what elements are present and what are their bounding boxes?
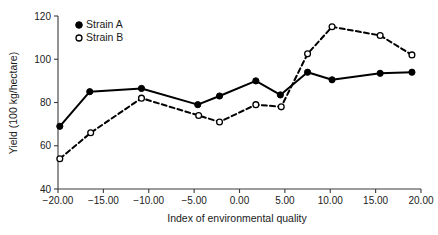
y-tick-label: 80: [40, 97, 52, 108]
x-tick-label: −15.00: [88, 195, 119, 206]
x-tick-label: 10.00: [318, 195, 343, 206]
series-strain-a: [57, 69, 415, 129]
data-point: [87, 89, 93, 95]
chart-canvas: 406080100120−20.00−15.00−10.00−5.000.005…: [0, 0, 438, 235]
y-tick-label: 60: [40, 140, 52, 151]
series-strain-b: [57, 24, 415, 162]
x-tick-label: −10.00: [133, 195, 164, 206]
y-tick-label: 100: [34, 54, 51, 65]
data-point: [305, 51, 311, 57]
y-axis-title: Yield (100 kg/hectare): [7, 52, 19, 154]
data-point: [217, 119, 223, 125]
y-tick-label: 120: [34, 11, 51, 22]
legend-marker-filled-circle-icon: [76, 22, 83, 29]
x-tick-label: 0.00: [230, 195, 250, 206]
x-tick-label: 20.00: [408, 195, 433, 206]
chart-figure: 406080100120−20.00−15.00−10.00−5.000.005…: [0, 0, 438, 235]
data-point: [277, 92, 283, 98]
x-tick-label: −20.00: [43, 195, 74, 206]
data-point: [304, 69, 310, 75]
data-series: [57, 24, 415, 162]
data-point: [377, 70, 383, 76]
data-point: [196, 113, 202, 119]
data-point: [139, 95, 145, 101]
y-tick-label: 40: [40, 184, 52, 195]
chart-legend: Strain AStrain B: [76, 18, 124, 43]
data-point: [216, 93, 222, 99]
legend-label: Strain B: [86, 31, 123, 43]
series-line: [60, 27, 412, 159]
legend-label: Strain A: [86, 18, 123, 30]
legend-marker-open-circle-icon: [76, 35, 82, 41]
data-point: [329, 24, 335, 30]
data-point: [57, 123, 63, 129]
data-point: [253, 78, 259, 84]
data-point: [195, 102, 201, 108]
data-point: [88, 130, 94, 136]
data-point: [409, 52, 415, 58]
x-tick-label: −5.00: [181, 195, 207, 206]
data-point: [57, 156, 63, 162]
x-tick-label: 15.00: [363, 195, 388, 206]
x-tick-label: 5.00: [275, 195, 295, 206]
data-point: [253, 102, 259, 108]
data-point: [409, 69, 415, 75]
data-point: [138, 85, 144, 91]
data-point: [278, 104, 284, 110]
data-point: [377, 33, 383, 39]
data-point: [329, 77, 335, 83]
x-axis-title: Index of environmental quality: [167, 212, 307, 224]
